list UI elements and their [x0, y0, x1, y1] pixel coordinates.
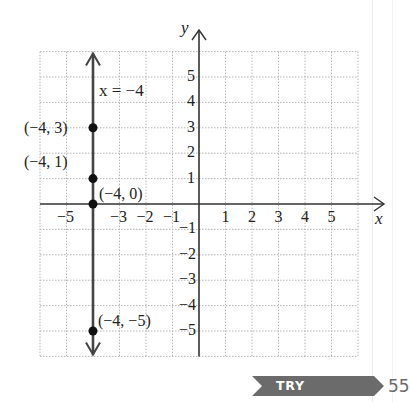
y-tick-label: 5: [187, 67, 195, 85]
x-tick-label: 1: [222, 208, 230, 226]
y-tick-label: −2: [179, 245, 196, 263]
y-axis-label: y: [181, 18, 189, 38]
try-exercise-label: TRY EXERCISE: [276, 378, 384, 402]
point-label: (−4, 0): [99, 185, 143, 203]
x-tick-label: 3: [275, 208, 283, 226]
point-label: (−4, −5): [98, 312, 151, 330]
x-tick-label: −3: [110, 208, 127, 226]
x-tick-label: 4: [301, 208, 309, 226]
point-label: (−4, 1): [24, 153, 68, 171]
data-point: [89, 123, 98, 132]
y-tick-label: −5: [179, 321, 196, 339]
y-tick-label: −3: [179, 270, 196, 288]
x-tick-label: 2: [248, 208, 256, 226]
y-tick-label: −4: [179, 296, 196, 314]
line-equation-label: x = −4: [99, 81, 144, 101]
point-label: (−4, 3): [24, 119, 68, 137]
y-tick-label: 2: [187, 143, 195, 161]
x-tick-label: −2: [137, 208, 154, 226]
coordinate-plane: [0, 0, 410, 402]
axes: [40, 30, 384, 356]
y-tick-label: −1: [179, 219, 196, 237]
x-tick-label: −1: [163, 208, 180, 226]
y-tick-label: 3: [187, 118, 195, 136]
y-tick-label: 4: [187, 92, 195, 110]
data-point: [89, 174, 98, 183]
x-tick-label: 5: [328, 208, 336, 226]
try-exercise-button[interactable]: TRY EXERCISE: [252, 376, 384, 396]
data-point: [89, 327, 98, 336]
x-axis-label: x: [375, 209, 383, 229]
exercise-number[interactable]: 55: [388, 376, 410, 396]
data-point: [89, 200, 98, 209]
x-tick-label: −5: [57, 208, 74, 226]
try-exercise-badge[interactable]: TRY EXERCISE 55: [252, 376, 384, 396]
y-tick-label: 1: [187, 169, 195, 187]
